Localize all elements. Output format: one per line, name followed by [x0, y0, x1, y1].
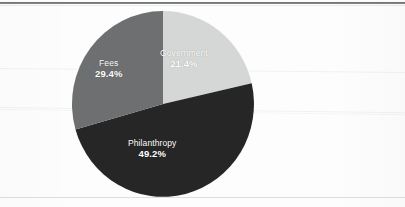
pie-label-government: Government 21.4%: [160, 48, 208, 70]
bottom-divider-rule: [0, 197, 405, 198]
pie-label-fees-name: Fees: [95, 58, 122, 68]
pie-label-government-value: 21.4%: [160, 58, 208, 70]
pie-chart-figure: Government 21.4% Fees 29.4% Philanthropy…: [0, 0, 405, 207]
pie-label-government-name: Government: [160, 48, 208, 58]
pie-label-fees-value: 29.4%: [95, 68, 122, 80]
pie-label-philanthropy-value: 49.2%: [128, 148, 176, 160]
pie-label-fees: Fees 29.4%: [95, 58, 122, 80]
pie-slices: [72, 11, 254, 197]
pie-label-philanthropy: Philanthropy 49.2%: [128, 138, 176, 160]
pie-label-philanthropy-name: Philanthropy: [128, 138, 176, 148]
top-divider-hairline: [0, 5, 405, 6]
pie-chart-svg: [72, 11, 254, 197]
top-divider-rule: [0, 2, 405, 4]
pie-chart-plot-area: [72, 11, 254, 197]
